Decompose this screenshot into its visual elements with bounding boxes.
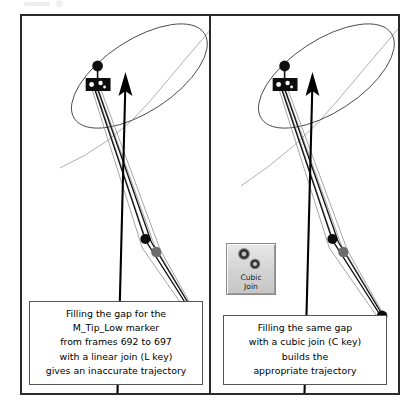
cropped-image-artifact — [24, 0, 66, 9]
trajectory-guide-curve — [241, 22, 398, 186]
cubic-join-panel: Cubic Join Filling the same gap with a c… — [211, 16, 398, 393]
marker-highlight-left — [89, 82, 94, 87]
caption-line: Filling the same gap — [228, 321, 382, 335]
cubic-join-button-label: Cubic Join — [240, 273, 261, 292]
marker-selection-ellipse — [242, 16, 398, 149]
marker-highlight-right — [285, 81, 289, 85]
cubic-join-icon — [229, 246, 273, 272]
trajectory-marker-mid-gray — [151, 247, 161, 257]
marker-cluster — [273, 61, 298, 91]
trajectory-marker-mid-dark — [140, 234, 150, 244]
marker-highlight-left — [276, 82, 281, 87]
trajectory-guide-curve — [60, 22, 209, 168]
cubic-join-caption: Filling the same gap with a cubic join (… — [223, 315, 387, 385]
linear-join-panel: Filling the gap for the M_Tip_Low marker… — [22, 16, 211, 393]
caption-line: Filling the gap for the — [34, 307, 198, 321]
caption-line: with a linear join (L key) — [34, 350, 198, 364]
artifact-bar — [24, 2, 50, 6]
trajectory-marker-mid-dark — [327, 234, 337, 244]
caption-line: gives an inaccurate trajectory — [34, 364, 198, 378]
marker-highlight-small — [290, 86, 293, 89]
cubic-join-button[interactable]: Cubic Join — [226, 243, 276, 295]
artifact-dot — [56, 0, 63, 7]
caption-line: builds the — [228, 350, 382, 364]
linear-join-caption: Filling the gap for the M_Tip_Low marker… — [29, 301, 203, 385]
light-trajectory-strands — [92, 86, 199, 319]
cubic-join-label-line: Join — [240, 282, 261, 291]
marker-highlight-right — [98, 81, 102, 85]
marker-head-dot — [92, 61, 103, 72]
marker-selection-ellipse — [55, 16, 209, 149]
caption-line: appropriate trajectory — [228, 364, 382, 378]
trajectory-marker-mid-gray — [338, 247, 348, 257]
caption-line: from frames 692 to 697 — [34, 335, 198, 349]
figure-container: Filling the gap for the M_Tip_Low marker… — [20, 14, 400, 395]
marker-head-dot — [279, 61, 290, 72]
marker-cluster — [86, 61, 111, 91]
dark-trajectory-lines — [281, 86, 383, 316]
caption-line: with a cubic join (C key) — [228, 335, 382, 349]
marker-highlight-small — [103, 86, 106, 89]
cubic-join-label-line: Cubic — [240, 273, 261, 282]
light-trajectory-strands — [279, 86, 386, 319]
caption-line: M_Tip_Low marker — [34, 321, 198, 335]
dark-trajectory-lines — [94, 86, 196, 316]
